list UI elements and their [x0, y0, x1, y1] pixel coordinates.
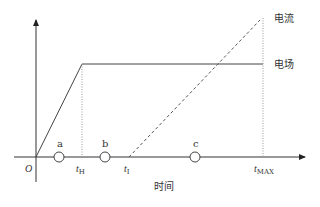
t-i-sub: I	[127, 168, 130, 176]
point-b-label: b	[102, 139, 108, 149]
t-i-label: tI	[124, 164, 130, 176]
point-a-label: a	[57, 139, 63, 149]
t-max-label: tMAX	[254, 164, 274, 176]
point-a-marker	[54, 152, 64, 162]
point-b-marker	[100, 152, 110, 162]
field-line	[36, 64, 263, 157]
current-label: 电流	[274, 14, 294, 24]
origin-label: O	[25, 164, 32, 174]
point-c-marker	[190, 152, 200, 162]
x-axis-label: 时间	[154, 182, 174, 192]
point-c-label: c	[193, 139, 199, 149]
t-max-sub: MAX	[257, 168, 274, 176]
field-label: 电场	[274, 60, 294, 70]
current-line	[129, 20, 260, 157]
t-h-sub: H	[79, 168, 85, 176]
t-h-label: tH	[76, 164, 85, 176]
